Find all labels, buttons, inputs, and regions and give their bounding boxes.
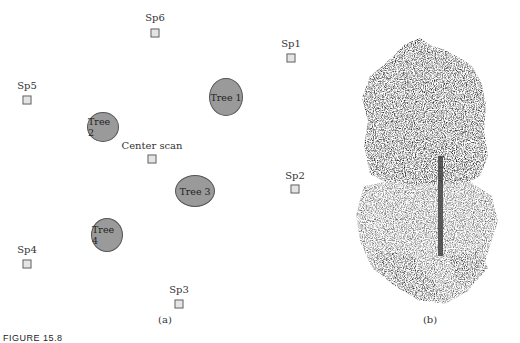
tree-3-label: Tree 3 [179, 186, 210, 197]
tree-3-marker: Tree 3 [175, 175, 215, 207]
scan-label-sp6: Sp6 [145, 12, 165, 23]
tree-2-marker: Tree 2 [87, 112, 119, 142]
scan-position-marker-sp2 [291, 185, 300, 194]
scan-position-marker-sp1 [287, 54, 296, 63]
scan-position-marker-sp4 [23, 260, 32, 269]
scan-label-sp4: Sp4 [17, 244, 37, 255]
tree-point-cloud-image [350, 36, 510, 311]
scan-position-marker-center [148, 155, 157, 164]
scan-label-sp1: Sp1 [281, 38, 301, 49]
panel-b-label: (b) [423, 314, 437, 325]
tree-1-label: Tree 1 [210, 92, 241, 103]
tree-4-marker: Tree 4 [91, 218, 123, 252]
tree-2-label: Tree 2 [88, 116, 118, 138]
tree-4-label: Tree 4 [92, 224, 122, 246]
scan-label-sp2: Sp2 [285, 170, 305, 181]
scan-label-sp5: Sp5 [17, 80, 37, 91]
figure-caption: FIGURE 15.8 [3, 333, 63, 343]
scan-position-marker-sp3 [175, 300, 184, 309]
scan-position-marker-sp6 [151, 29, 160, 38]
scan-position-marker-sp5 [23, 96, 32, 105]
scan-label-center: Center scan [121, 140, 182, 151]
scan-label-sp3: Sp3 [169, 284, 189, 295]
tree-1-marker: Tree 1 [209, 78, 243, 116]
panel-a-label: (a) [158, 314, 172, 325]
